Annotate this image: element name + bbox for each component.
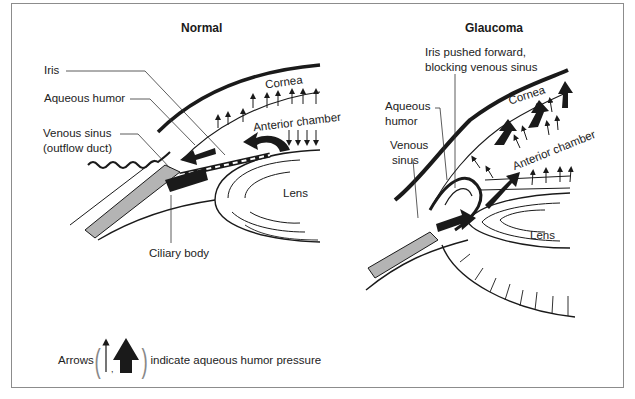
thick-pressure-arrow bbox=[494, 119, 517, 145]
label-venous-glaucoma-2: sinus bbox=[392, 153, 419, 168]
label-lens-normal: Lens bbox=[283, 186, 308, 201]
panel-title-glaucoma: Glaucoma bbox=[465, 21, 523, 35]
label-iris: Iris bbox=[44, 63, 59, 78]
label-venous-glaucoma-1: Venous bbox=[390, 138, 428, 153]
legend-separator: , bbox=[111, 362, 114, 377]
label-aqueous-glaucoma-1: Aqueous bbox=[385, 99, 430, 114]
label-aqueous-glaucoma-2: humor bbox=[385, 114, 418, 129]
label-ciliary-body: Ciliary body bbox=[149, 246, 209, 261]
legend-close-paren: ) bbox=[142, 340, 148, 380]
label-iris-pushed-1: Iris pushed forward, bbox=[425, 45, 526, 60]
label-outflow-duct: (outflow duct) bbox=[43, 141, 112, 156]
legend-prefix: Arrows bbox=[58, 354, 94, 366]
label-venous-sinus: Venous sinus bbox=[43, 126, 111, 141]
legend-open-paren: ( bbox=[94, 340, 100, 380]
label-aqueous-humor: Aqueous humor bbox=[44, 91, 125, 106]
legend: Arrows ( ) indicate aqueous humor pressu… bbox=[58, 340, 321, 380]
label-lens-glaucoma: Lens bbox=[530, 228, 555, 243]
legend-suffix: indicate aqueous humor pressure bbox=[150, 354, 321, 366]
panel-title-normal: Normal bbox=[181, 21, 222, 35]
label-iris-pushed-2: blocking venous sinus bbox=[425, 60, 538, 75]
